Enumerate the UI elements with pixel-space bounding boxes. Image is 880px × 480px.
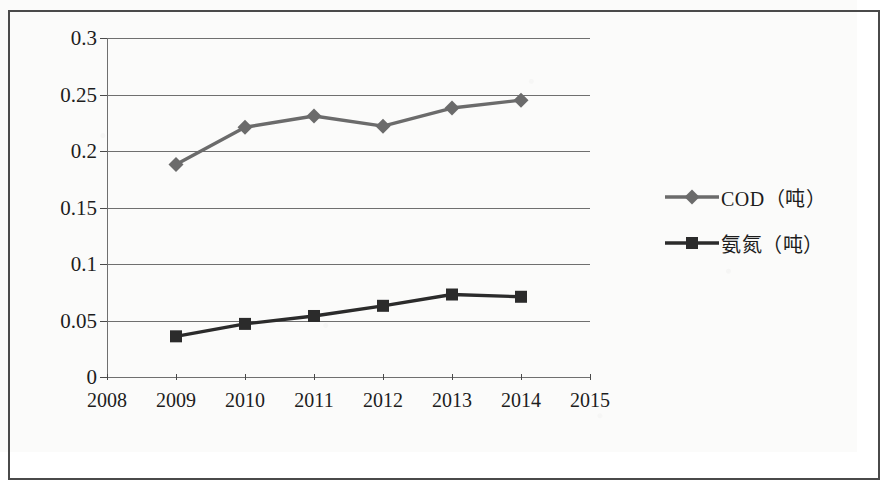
y-axis-tick [100, 208, 107, 209]
x-axis-tick [107, 374, 108, 380]
y-axis-tick-label: 0.1 [71, 254, 97, 275]
diamond-marker-icon [663, 184, 721, 210]
x-axis-tick [314, 374, 315, 380]
y-axis-tick [100, 321, 107, 322]
data-point-marker [446, 289, 458, 301]
x-axis-tick-label: 2009 [156, 390, 196, 410]
legend-item-label: 氨氮（吨） [721, 229, 824, 258]
series-line [176, 295, 521, 337]
x-axis-tick-label: 2011 [294, 390, 333, 410]
data-point-marker [239, 318, 251, 330]
x-axis-tick [590, 374, 591, 380]
data-point-marker [514, 93, 529, 108]
x-axis-tick-label: 2013 [432, 390, 472, 410]
data-point-marker [515, 291, 527, 303]
data-point-marker [308, 310, 320, 322]
y-axis-tick-label: 0.25 [60, 85, 97, 106]
y-axis-labels: 00.050.10.150.20.250.3 [0, 38, 97, 377]
chart-legend: COD（吨）氨氮（吨） [663, 174, 853, 266]
data-point-marker [307, 108, 322, 123]
legend-item[interactable]: COD（吨） [663, 174, 853, 220]
data-point-marker [376, 119, 391, 134]
x-axis-tick [452, 374, 453, 380]
x-axis-tick-label: 2010 [225, 390, 265, 410]
x-axis-labels: 20082009201020112012201320142015 [107, 390, 590, 420]
gridline [107, 377, 590, 378]
series-line [176, 100, 521, 164]
y-axis-tick [100, 264, 107, 265]
y-axis-tick-label: 0.15 [60, 198, 97, 219]
x-axis-tick-label: 2008 [87, 390, 127, 410]
y-axis-tick-label: 0.2 [71, 141, 97, 162]
x-axis-tick [245, 374, 246, 380]
data-point-marker [445, 101, 460, 116]
data-point-marker [377, 300, 389, 312]
x-axis-tick [176, 374, 177, 380]
x-axis-tick-label: 2015 [570, 390, 610, 410]
legend-item[interactable]: 氨氮（吨） [663, 220, 853, 266]
x-axis-tick [521, 374, 522, 380]
square-marker-icon [663, 230, 721, 256]
y-axis-tick-label: 0 [87, 367, 98, 388]
series-layer [107, 38, 590, 377]
x-axis-tick-label: 2014 [501, 390, 541, 410]
y-axis-tick [100, 377, 107, 378]
x-axis-tick [383, 374, 384, 380]
x-axis-tick-label: 2012 [363, 390, 403, 410]
y-axis-tick-label: 0.05 [60, 311, 97, 332]
y-axis-tick-label: 0.3 [71, 28, 97, 49]
legend-item-label: COD（吨） [721, 183, 826, 212]
y-axis-tick [100, 38, 107, 39]
plot-area [107, 38, 590, 377]
data-point-marker [169, 157, 184, 172]
y-axis-tick [100, 151, 107, 152]
data-point-marker [170, 330, 182, 342]
data-point-marker [238, 120, 253, 135]
y-axis-tick [100, 95, 107, 96]
